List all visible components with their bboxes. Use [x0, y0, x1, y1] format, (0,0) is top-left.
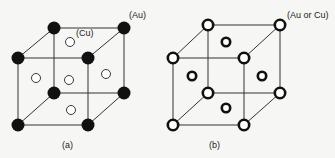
- corner-atom: [239, 120, 249, 130]
- caption-a: (a): [62, 140, 73, 150]
- face-atom-right: [258, 72, 266, 80]
- face-atom-left: [188, 72, 196, 80]
- face-atom-top: [222, 38, 230, 46]
- au-or-cu-label: (Au or Cu): [287, 10, 329, 20]
- cu-label: (Cu): [76, 28, 94, 38]
- au-atom: [118, 22, 131, 35]
- cu-atom-bottom-face: [67, 106, 76, 115]
- au-atom: [48, 22, 61, 35]
- corner-atom: [275, 20, 285, 30]
- au-atom: [82, 119, 95, 132]
- cu-atom-right-face: [102, 70, 111, 79]
- crystal-structure-figure: (Cu) (Au) (a) (Au: [0, 0, 335, 158]
- face-atom-bottom: [222, 104, 230, 112]
- corner-atom: [203, 88, 213, 98]
- corner-atom: [168, 53, 178, 63]
- au-atom: [48, 87, 61, 100]
- au-atom: [82, 52, 95, 65]
- au-label: (Au): [129, 10, 146, 20]
- corner-atom: [168, 120, 178, 130]
- corner-atom: [239, 53, 249, 63]
- panel-a-ordered-cu3au: (Cu) (Au) (a): [12, 10, 147, 150]
- corner-atom: [203, 20, 213, 30]
- au-atom: [118, 87, 131, 100]
- cu-atom-left-face: [32, 74, 41, 83]
- caption-b: (b): [209, 140, 220, 150]
- au-atom: [12, 52, 25, 65]
- panel-b-disordered-fcc: (Au or Cu) (b): [168, 10, 329, 150]
- corner-atom: [275, 88, 285, 98]
- cu-atom-back-face: [65, 76, 74, 85]
- cu-atom-top-face: [66, 38, 75, 47]
- au-atom: [12, 119, 25, 132]
